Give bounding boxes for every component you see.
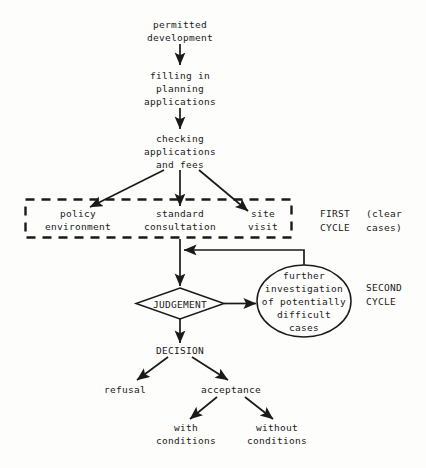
arrow-checking-to-policy <box>90 170 164 207</box>
node-filling-in-planning-applications: filling in planning applications <box>144 69 216 108</box>
node-without-conditions: without conditions <box>247 421 307 447</box>
arrow-decision-to-refusal <box>137 357 168 380</box>
flowchart-diagram: permitted development filling in plannin… <box>0 0 426 468</box>
node-standard-consultation: standard consultation <box>144 207 216 233</box>
arrow-acceptance-to-with-conditions <box>190 397 217 419</box>
node-with-conditions: with conditions <box>156 421 216 447</box>
node-policy-environment: policy environment <box>45 207 111 233</box>
arrow-checking-to-site-visit <box>199 170 248 211</box>
node-checking-applications-and-fees: checking applications and fees <box>144 132 216 171</box>
annotation-second-cycle: SECOND CYCLE <box>366 281 402 308</box>
arrow-acceptance-to-without-conditions <box>245 397 273 419</box>
node-permitted-development: permitted development <box>147 18 213 44</box>
feedback-loop-to-firstcycle <box>184 250 304 265</box>
node-further-investigation: further investigation of potentially dif… <box>262 269 346 334</box>
arrow-decision-to-acceptance <box>192 357 228 380</box>
annotation-clear-cases: (clear cases) <box>366 207 402 234</box>
node-site-visit: site visit <box>248 207 278 233</box>
node-refusal: refusal <box>104 383 146 396</box>
node-acceptance: acceptance <box>201 383 261 396</box>
annotation-first-cycle: FIRST CYCLE <box>320 207 350 234</box>
node-decision: DECISION <box>156 344 204 357</box>
node-judgement: JUDGEMENT <box>153 298 207 311</box>
